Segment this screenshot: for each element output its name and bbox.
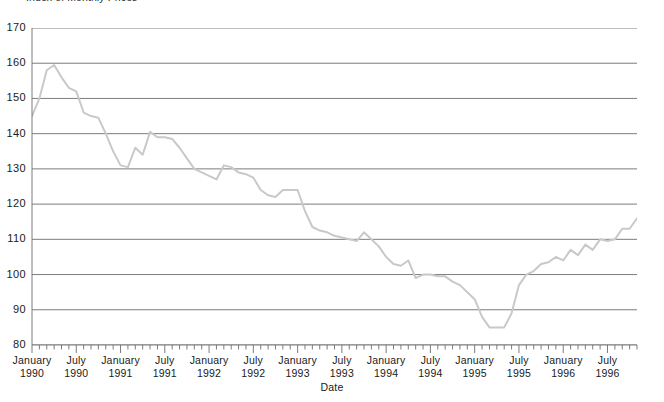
- x-axis-tick-label: July1996: [577, 354, 637, 379]
- x-axis-tick-labels: January1990July1990January1991July1991Ja…: [0, 0, 664, 402]
- x-axis-tick-label-year: 1996: [577, 367, 637, 380]
- x-axis-title: Date: [0, 381, 664, 393]
- x-axis-tick-label-month: July: [577, 354, 637, 367]
- chart-container: Index of Monthly Prices 1701601501401301…: [0, 0, 664, 402]
